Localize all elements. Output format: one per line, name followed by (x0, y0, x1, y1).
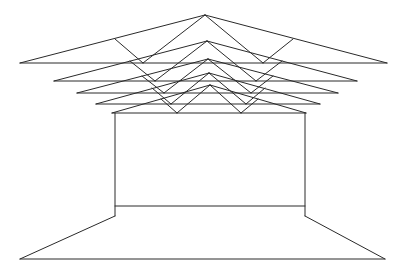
truss-drawing-svg (0, 0, 400, 275)
floor-right-edge (305, 216, 385, 259)
room-outline (20, 113, 385, 259)
web-left-outer (115, 39, 143, 63)
top-chord-left (20, 15, 205, 63)
truss-4 (96, 73, 320, 104)
truss-3 (77, 59, 338, 93)
web-right-outer (256, 61, 282, 81)
truss-drawing (0, 0, 400, 275)
floor-left-edge (20, 216, 115, 259)
truss-1 (20, 15, 387, 63)
web-left-inner (171, 73, 209, 104)
top-chord-right (205, 15, 387, 63)
roof-trusses (20, 15, 387, 113)
web-right-outer (263, 39, 293, 63)
truss-5 (112, 85, 306, 113)
web-right-inner (208, 59, 251, 93)
